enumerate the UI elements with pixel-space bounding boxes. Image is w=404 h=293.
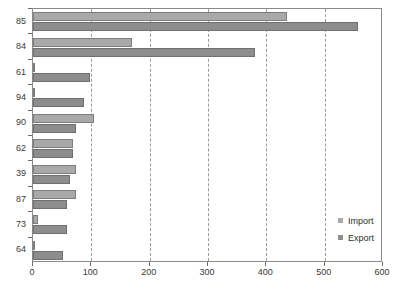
y-tick-label-87: 87: [16, 194, 26, 204]
y-tick-mark: [28, 160, 32, 161]
x-axis: 0100200300400500600: [32, 262, 382, 286]
legend-label: Export: [348, 233, 374, 243]
plot-area: [32, 8, 382, 262]
bar-group: [33, 190, 381, 209]
x-tick-label-600: 600: [374, 267, 389, 278]
bar-import: [33, 241, 35, 250]
bar-import: [33, 12, 287, 21]
x-tick-label-300: 300: [199, 267, 214, 278]
bar-import: [33, 165, 76, 174]
bar-export: [33, 73, 90, 82]
bar-export: [33, 251, 63, 260]
y-tick-mark: [28, 33, 32, 34]
bars-layer: [33, 9, 381, 261]
x-tick-mark: [32, 262, 33, 266]
y-tick-mark: [28, 135, 32, 136]
x-tick-mark: [265, 262, 266, 266]
y-axis: 85846194906239877364: [0, 8, 32, 262]
bar-export: [33, 124, 76, 133]
x-tick-mark: [382, 262, 383, 266]
chart-legend: ImportExport: [338, 212, 384, 246]
bar-import: [33, 139, 73, 148]
bar-group: [33, 165, 381, 184]
y-tick-label-39: 39: [16, 168, 26, 178]
bar-export: [33, 22, 358, 31]
bar-import: [33, 190, 76, 199]
y-tick-label-90: 90: [16, 117, 26, 127]
y-tick-label-62: 62: [16, 143, 26, 153]
bar-import: [33, 215, 38, 224]
y-tick-label-94: 94: [16, 92, 26, 102]
y-tick-mark: [28, 84, 32, 85]
bar-import: [33, 88, 35, 97]
y-tick-mark: [28, 186, 32, 187]
bar-import: [33, 38, 132, 47]
bar-export: [33, 149, 73, 158]
bar-export: [33, 200, 67, 209]
x-tick-label-0: 0: [29, 267, 34, 278]
legend-label: Import: [348, 216, 374, 226]
bar-group: [33, 215, 381, 234]
y-tick-mark: [28, 59, 32, 60]
bar-export: [33, 98, 84, 107]
x-tick-label-200: 200: [141, 267, 156, 278]
bar-export: [33, 48, 255, 57]
legend-item-import[interactable]: Import: [338, 212, 384, 229]
bar-group: [33, 88, 381, 107]
y-tick-label-73: 73: [16, 219, 26, 229]
y-tick-label-84: 84: [16, 41, 26, 51]
bar-import: [33, 114, 94, 123]
x-tick-label-500: 500: [316, 267, 331, 278]
bar-export: [33, 225, 67, 234]
legend-swatch-export-icon: [338, 235, 343, 240]
legend-item-export[interactable]: Export: [338, 229, 384, 246]
y-tick-mark: [28, 8, 32, 9]
bar-group: [33, 38, 381, 57]
bar-group: [33, 63, 381, 82]
y-tick-mark: [28, 211, 32, 212]
bar-import: [33, 63, 35, 72]
x-tick-mark: [90, 262, 91, 266]
x-tick-label-400: 400: [258, 267, 273, 278]
x-tick-mark: [324, 262, 325, 266]
y-tick-label-61: 61: [16, 67, 26, 77]
bar-chart: 85846194906239877364 0100200300400500600…: [0, 0, 404, 293]
x-tick-mark: [149, 262, 150, 266]
bar-group: [33, 241, 381, 260]
bar-group: [33, 139, 381, 158]
x-tick-label-100: 100: [83, 267, 98, 278]
bar-group: [33, 114, 381, 133]
legend-swatch-import-icon: [338, 218, 343, 223]
y-tick-mark: [28, 237, 32, 238]
y-tick-label-64: 64: [16, 244, 26, 254]
bar-export: [33, 175, 70, 184]
x-tick-mark: [207, 262, 208, 266]
y-tick-mark: [28, 110, 32, 111]
y-tick-label-85: 85: [16, 16, 26, 26]
bar-group: [33, 12, 381, 31]
